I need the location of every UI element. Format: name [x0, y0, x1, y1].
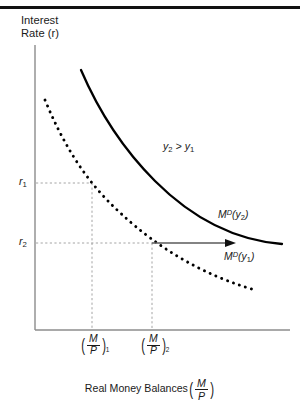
- curve-label-md-y1: MD(y1): [224, 251, 254, 265]
- x-axis-title-denominator: P: [196, 390, 207, 401]
- x-axis-title-fraction-group: (MP): [188, 378, 215, 401]
- curve1-close-paren: ): [251, 251, 254, 262]
- x-axis-title-fraction: MP: [195, 378, 208, 401]
- x-axis-title-text: Real Money Balances: [85, 382, 188, 394]
- curve1-base: M: [224, 251, 233, 262]
- x-tick-2-fraction: MP: [147, 334, 160, 357]
- inequality-y1-sub: 1: [190, 145, 194, 154]
- x-tick-2-open-paren: (: [141, 338, 145, 353]
- shift-arrow-head: [225, 239, 236, 247]
- x-tick-1-fraction: MP: [87, 334, 100, 357]
- x-tick-2-numerator: M: [147, 334, 160, 346]
- x-tick-1-numerator: M: [87, 334, 100, 346]
- money-demand-curve-y2: [81, 70, 282, 244]
- y-tick-r2-sub: 2: [23, 240, 27, 249]
- curve2-base: M: [218, 209, 227, 220]
- y-tick-r1-sub: 1: [23, 180, 27, 189]
- x-axis-title-open-paren: (: [189, 382, 193, 397]
- y-axis-title-line1: Interest: [21, 14, 59, 27]
- x-tick-2-group: (MP): [140, 334, 167, 357]
- x-tick-2-close-paren: ): [162, 338, 166, 353]
- x-tick-1-open-paren: (: [81, 338, 85, 353]
- x-axis-title-close-paren: ): [210, 382, 214, 397]
- x-axis-title: Real Money Balances(MP): [0, 378, 300, 401]
- x-axis-title-numerator: M: [195, 378, 208, 390]
- x-tick-1-close-paren: ): [102, 338, 106, 353]
- curve2-close-paren: ): [245, 209, 248, 220]
- y-tick-label-r1: r1: [19, 175, 27, 190]
- money-demand-figure: Interest Rate (r) r1 r2 y2 > y1 MD(y2) M…: [0, 0, 300, 406]
- x-tick-1-group: (MP): [80, 334, 107, 357]
- inequality-operator: >: [173, 140, 185, 152]
- x-tick-2-subscript: 2: [166, 346, 170, 354]
- y-axis-title: Interest Rate (r): [21, 14, 59, 40]
- y-tick-label-r2: r2: [19, 235, 27, 250]
- income-inequality-annotation: y2 > y1: [163, 140, 194, 154]
- y-axis-title-line2: Rate (r): [21, 27, 59, 40]
- x-tick-label-mp1: (MP)1: [80, 334, 109, 357]
- x-tick-1-denominator: P: [88, 346, 99, 357]
- x-tick-label-mp2: (MP)2: [140, 334, 169, 357]
- x-tick-1-subscript: 1: [106, 346, 110, 354]
- x-tick-2-denominator: P: [148, 346, 159, 357]
- curve-label-md-y2: MD(y2): [218, 209, 248, 223]
